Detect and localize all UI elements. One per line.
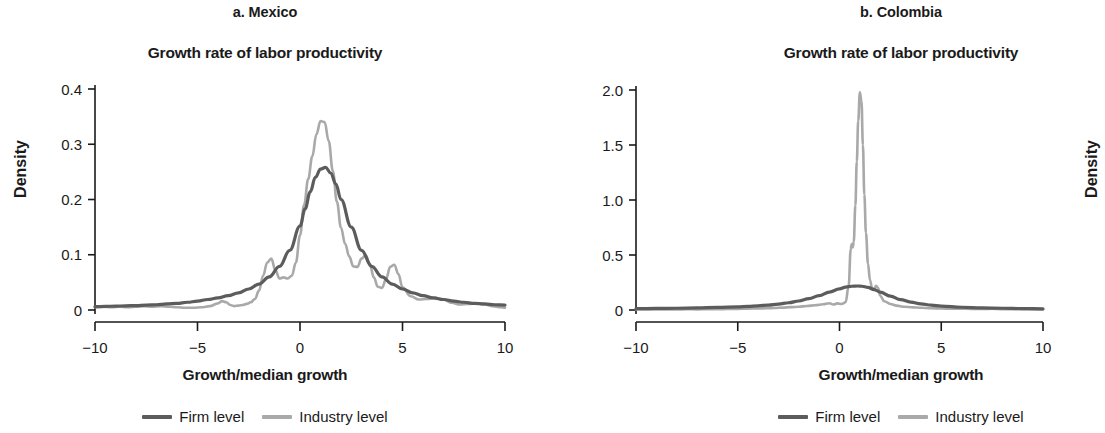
- y-tick-label: 0: [74, 302, 82, 319]
- legend-mexico: Firm levelIndustry level: [0, 409, 530, 424]
- legend-entry: Industry level: [898, 409, 1023, 424]
- legend-line-swatch-icon: [898, 415, 928, 419]
- x-tick-label: 0: [835, 339, 843, 356]
- legend-line-swatch-icon: [142, 415, 172, 419]
- series-line-industry-level: [636, 92, 1043, 309]
- x-tick-label: 10: [497, 339, 514, 356]
- x-tick-label: −10: [623, 339, 648, 356]
- legend-line-swatch-icon: [778, 415, 808, 419]
- series-line-industry-level: [95, 121, 505, 308]
- x-tick-label: 5: [398, 339, 406, 356]
- y-tick-label: 0.1: [61, 246, 82, 263]
- y-axis-label-colombia: Density: [1083, 109, 1101, 229]
- x-tick-label: −5: [729, 339, 746, 356]
- x-axis-label-colombia: Growth/median growth: [636, 366, 1105, 384]
- y-tick-label: 1.5: [602, 137, 623, 154]
- y-tick-label: 0.5: [602, 247, 623, 264]
- x-tick-label: −5: [189, 339, 206, 356]
- x-tick-label: −10: [82, 339, 107, 356]
- legend-label: Industry level: [935, 409, 1023, 424]
- y-tick-label: 0.4: [61, 81, 82, 98]
- x-tick-label: 5: [937, 339, 945, 356]
- legend-entry: Industry level: [262, 409, 387, 424]
- legend-label: Firm level: [179, 409, 244, 424]
- legend-colombia: Firm levelIndustry level: [636, 409, 1105, 424]
- x-tick-label: 0: [296, 339, 304, 356]
- y-tick-label: 2.0: [602, 82, 623, 99]
- panel-colombia: b. Colombia Growth rate of labor product…: [530, 0, 1060, 433]
- legend-entry: Firm level: [142, 409, 244, 424]
- y-tick-label: 0.3: [61, 136, 82, 153]
- legend-entry: Firm level: [778, 409, 880, 424]
- x-axis-label-mexico: Growth/median growth: [0, 366, 530, 384]
- legend-line-swatch-icon: [262, 415, 292, 419]
- x-tick-label: 10: [1035, 339, 1052, 356]
- series-line-firm-level: [636, 286, 1043, 309]
- y-tick-label: 0: [615, 302, 623, 319]
- panel-mexico: a. Mexico Growth rate of labor productiv…: [0, 0, 530, 433]
- legend-label: Industry level: [299, 409, 387, 424]
- y-tick-label: 1.0: [602, 192, 623, 209]
- legend-label: Firm level: [815, 409, 880, 424]
- y-tick-label: 0.2: [61, 191, 82, 208]
